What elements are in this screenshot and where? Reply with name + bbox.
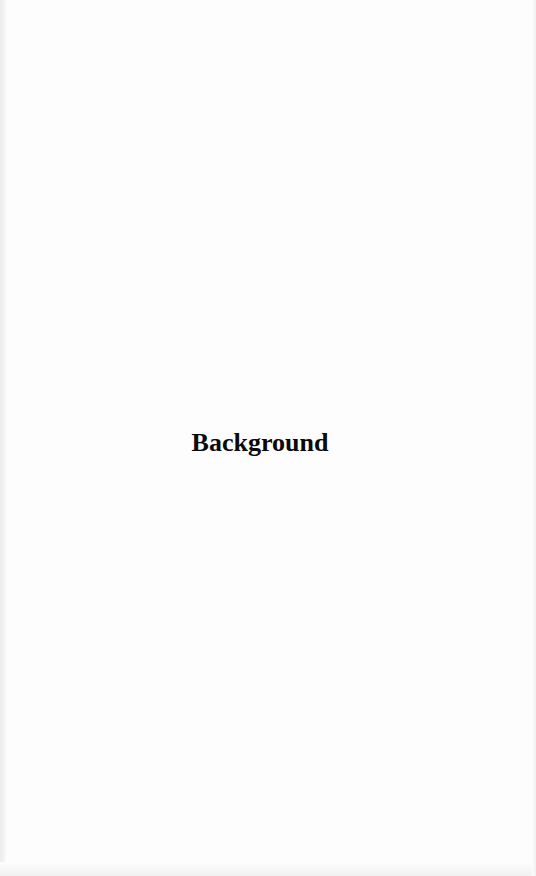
scanned-page: Background xyxy=(0,0,536,876)
section-heading: Background xyxy=(0,426,520,460)
